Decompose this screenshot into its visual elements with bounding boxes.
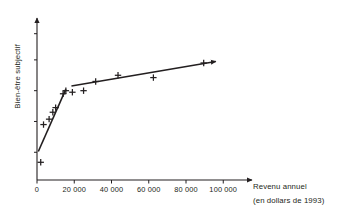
trend-line-segment-steep [38,89,66,151]
data-point-marker [92,78,98,84]
x-axis-tick-label: 20 000 [62,185,86,194]
data-point-marker [150,74,156,80]
data-point-marker [200,60,206,66]
x-axis-tick-label: 40 000 [100,185,124,194]
chart-figure: 020 00040 00060 00080 000100 000 Revenu … [0,0,352,222]
x-axis-tick-label: 0 [35,185,39,194]
x-axis-title: Revenu annuel [253,182,307,191]
y-axis-title: Bien-être subjectif [13,27,22,127]
data-point-marker [80,87,86,93]
data-points [38,60,207,166]
data-point-marker [40,121,46,127]
axes-group [37,18,252,180]
x-axis-tick-label: 80 000 [174,185,198,194]
x-axis-tick-label: 60 000 [137,185,161,194]
x-axis-tick-label: 100 000 [209,185,237,194]
data-point-marker [38,159,44,165]
x-axis-subtitle: (en dollars de 1993) [253,196,324,205]
trend-line-segment-plateau [71,61,215,86]
trend-lines [38,61,215,151]
data-point-marker [69,89,75,95]
